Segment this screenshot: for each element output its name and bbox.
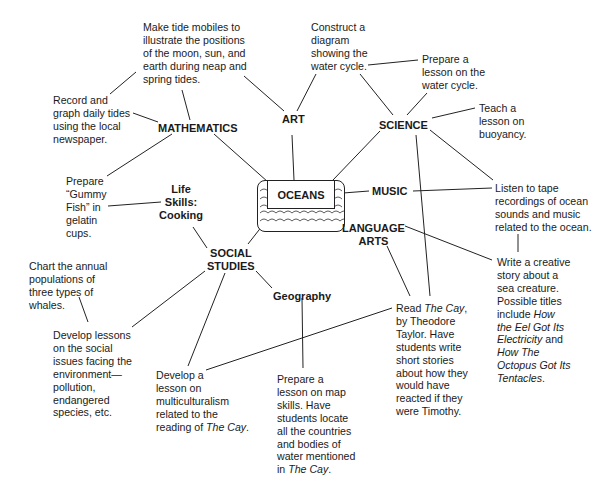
- activity-ocean-sounds: Listen to tape recordings of ocean sound…: [495, 182, 592, 234]
- book-title: The Cay: [206, 421, 246, 433]
- activity-whales: Chart the annual populations of three ty…: [29, 260, 107, 312]
- line-ocean-art: [292, 135, 294, 180]
- line-mobiles-record: [110, 72, 136, 94]
- line-language-write: [405, 226, 492, 260]
- line-math-record: [133, 113, 158, 122]
- topic-language-arts: LANGUAGE ARTS: [342, 222, 405, 248]
- topic-life-skills-cooking: Life Skills: Cooking: [159, 183, 203, 222]
- book-title: The Cay: [424, 302, 464, 314]
- activity-water-cycle-lesson: Prepare a lesson on the water cycle.: [422, 53, 485, 92]
- map-skills-text: Prepare a lesson on map skills. Have stu…: [277, 373, 355, 475]
- activity-read-the-cay: Read The Cay, by Theodore Taylor. Have s…: [396, 302, 468, 418]
- activity-record-tides: Record and graph daily tides using the l…: [53, 94, 130, 146]
- activity-water-cycle-diagram: Construct a diagram showing the water cy…: [311, 21, 368, 73]
- activity-multiculturalism: Develop a lesson on multiculturalism rel…: [156, 369, 249, 434]
- activity-map-skills: Prepare a lesson on map skills. Have stu…: [277, 373, 355, 476]
- line-gummy-lifeskills: [108, 202, 161, 206]
- line-math-mobiles: [182, 90, 190, 120]
- oceans-center-node: OCEANS: [267, 180, 335, 209]
- line-music-listen: [413, 188, 492, 191]
- line-geography-mapskills: [302, 298, 303, 368]
- read-cay-text: , by Theodore Taylor. Have students writ…: [396, 302, 468, 417]
- topic-social-studies: SOCIAL STUDIES: [207, 247, 255, 273]
- line-ocean-math: [214, 134, 268, 182]
- line-science-buoyancy: [432, 108, 475, 118]
- topic-geography: Geography: [273, 290, 331, 303]
- story-title-octopus: How The Octopus Got Its Tentacles: [497, 346, 571, 384]
- topic-art: ART: [282, 113, 305, 126]
- line-language-readcay: [387, 246, 410, 296]
- activity-tide-mobiles: Make tide mobiles to illustrate the posi…: [143, 21, 247, 86]
- line-social-socialissues: [132, 271, 205, 327]
- line-ocean-music: [343, 191, 369, 193]
- line-social-geography: [256, 271, 272, 288]
- conjunction: and: [542, 333, 563, 345]
- topic-mathematics: MATHEMATICS: [158, 122, 238, 135]
- line-multicultural-readcay: [206, 308, 392, 370]
- read-prefix: Read: [396, 302, 424, 314]
- punctuation: .: [328, 463, 331, 475]
- book-title: The Cay: [288, 463, 328, 475]
- line-art-diagram: [297, 74, 316, 111]
- topic-music: MUSIC: [372, 185, 407, 198]
- punctuation: .: [246, 421, 249, 433]
- line-ocean-science: [333, 131, 380, 180]
- line-social-multicultural: [188, 273, 225, 366]
- line-science-prepare: [407, 93, 427, 115]
- activity-buoyancy: Teach a lesson on buoyancy.: [479, 102, 527, 141]
- line-art-mobiles: [244, 76, 284, 111]
- topic-science: SCIENCE: [379, 119, 428, 132]
- activity-gummy-fish: Prepare “Gummy Fish” in gelatin cups.: [66, 175, 107, 240]
- line-science-readcay: [416, 135, 430, 296]
- line-science-diagram: [360, 74, 393, 115]
- line-lifeskills-social: [193, 227, 207, 248]
- line-diagram-prepare: [368, 60, 418, 65]
- activity-creative-story: Write a creative story about a sea creat…: [497, 256, 571, 385]
- punctuation: .: [542, 372, 545, 384]
- activity-social-issues: Develop lessons on the social issues fac…: [53, 329, 132, 419]
